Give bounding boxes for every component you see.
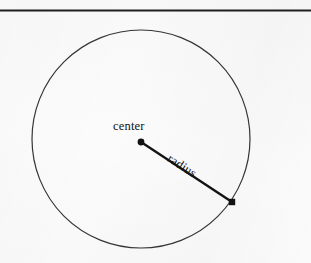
diagram-canvas [0, 0, 311, 263]
center-point-dot [138, 139, 145, 146]
edge-point-square [229, 199, 235, 205]
circle-diagram-figure: center radius [0, 0, 311, 263]
center-label: center [113, 120, 145, 133]
